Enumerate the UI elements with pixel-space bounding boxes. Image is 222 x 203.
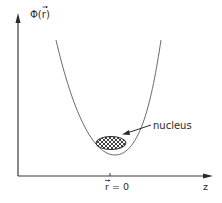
y-axis: [16, 13, 21, 176]
vector-arrow-icon: [43, 6, 49, 8]
potential-well-diagram: Φ(r) nucleus r = 0 z: [0, 0, 222, 203]
pointer-arrowhead-icon: [122, 130, 130, 135]
nucleus-ellipse: [96, 137, 126, 150]
y-axis-arrow-icon: [16, 13, 21, 23]
x-axis-label: z: [203, 181, 208, 192]
x-axis: [18, 173, 213, 179]
nucleus-label: nucleus: [153, 120, 192, 131]
x-axis-arrow-icon: [203, 174, 213, 179]
origin-label: r = 0: [105, 181, 129, 192]
y-axis-label: Φ(r): [30, 9, 50, 20]
nucleus-pointer: [122, 125, 151, 135]
